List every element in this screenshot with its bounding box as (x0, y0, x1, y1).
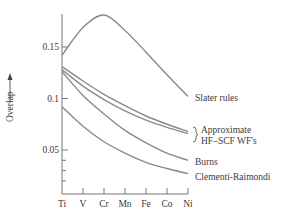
x-tick-label: V (80, 199, 87, 209)
x-ticks: TiVCrMnFeCoNi (58, 188, 193, 209)
y-tick-label: 0.1 (47, 94, 59, 104)
y-tick-label: 0.15 (42, 42, 59, 52)
x-tick-label: Cr (99, 199, 109, 209)
x-tick-label: Co (161, 199, 172, 209)
x-tick-label: Mn (118, 199, 131, 209)
x-tick-label: Ni (183, 199, 193, 209)
y-ticks: 0.150.10.05 (42, 42, 68, 181)
y-tick-label: 0.05 (42, 145, 59, 155)
overlap-chart: 0.150.10.05 TiVCrMnFeCoNi Overlap Slater… (0, 0, 285, 216)
label-hf-scf: HF–SCF WF's (201, 136, 257, 146)
label-burns: Burns (195, 157, 218, 167)
brace-icon (193, 127, 198, 142)
x-tick-label: Fe (141, 199, 151, 209)
series-line (62, 107, 188, 174)
x-tick-label: Ti (58, 199, 66, 209)
series-lines (62, 15, 188, 174)
label-clementi-raimondi: Clementi-Raimondi (195, 172, 271, 182)
label-slater-rules: Slater rules (195, 93, 238, 103)
label-approximate: Approximate (201, 125, 251, 135)
